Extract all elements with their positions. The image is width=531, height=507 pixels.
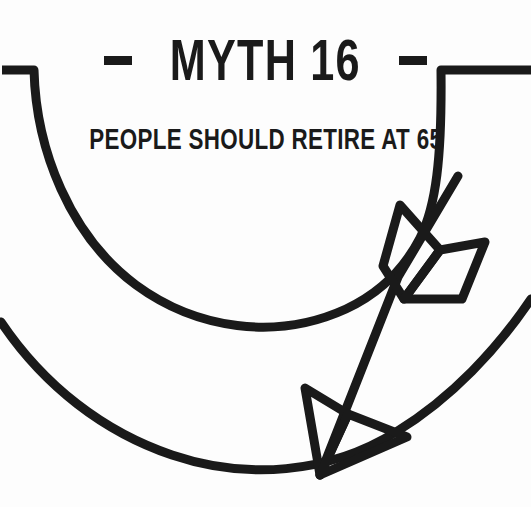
myth-illustration-page: MYTH 16 PEOPLE SHOULD RETIRE AT 65	[0, 0, 531, 507]
title-label: MYTH 16	[170, 31, 361, 88]
page-title: MYTH 16	[0, 32, 531, 88]
title-dash-left-icon	[104, 56, 132, 65]
subtitle-label: PEOPLE SHOULD RETIRE AT 65	[89, 125, 442, 154]
subtitle: PEOPLE SHOULD RETIRE AT 65	[0, 126, 531, 154]
title-dash-right-icon	[399, 56, 427, 65]
upper-sweeping-arc	[2, 70, 531, 327]
